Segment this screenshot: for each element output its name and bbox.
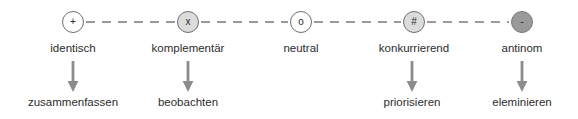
action-eleminieren: eleminieren	[492, 95, 551, 109]
label-identisch: identisch	[50, 41, 95, 55]
node-komplementaer[interactable]: x	[177, 11, 199, 33]
plus-symbol-icon: +	[70, 17, 76, 27]
node-identisch[interactable]: +	[62, 11, 84, 33]
action-priorisieren: priorisieren	[384, 95, 441, 109]
minus-symbol-icon: -	[520, 17, 523, 27]
node-antinom[interactable]: -	[511, 11, 533, 33]
arrow-down-icon-komplementaer	[181, 61, 195, 93]
node-konkurrierend[interactable]: #	[403, 11, 425, 33]
relationship-scale-diagram: + x o # - identisch komplementär neutral…	[0, 0, 578, 119]
label-komplementaer: komplementär	[152, 41, 225, 55]
label-neutral: neutral	[283, 41, 318, 55]
label-konkurrierend: konkurrierend	[379, 41, 449, 55]
action-beobachten: beobachten	[158, 95, 218, 109]
node-neutral[interactable]: o	[290, 11, 312, 33]
label-antinom: antinom	[502, 41, 543, 55]
hash-symbol-icon: #	[411, 17, 417, 27]
circle-symbol-icon: o	[298, 17, 304, 27]
arrow-down-icon-identisch	[66, 61, 80, 93]
action-zusammenfassen: zusammenfassen	[28, 95, 118, 109]
arrow-down-icon-konkurrierend	[405, 61, 419, 93]
cross-symbol-icon: x	[186, 17, 191, 27]
arrow-down-icon-antinom	[515, 61, 529, 93]
